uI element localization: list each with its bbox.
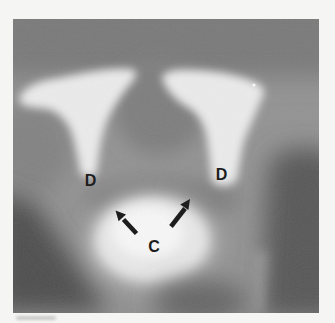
radiograph-image: D D C [13, 19, 319, 313]
film-grain-overlay [13, 19, 319, 313]
label-d-left: D [85, 172, 97, 189]
radiograph-figure: D D C [13, 19, 319, 313]
figure-page: D D C [0, 0, 335, 323]
label-c: C [148, 238, 160, 255]
label-d-right: D [216, 166, 228, 183]
margin-smudge [16, 316, 56, 320]
